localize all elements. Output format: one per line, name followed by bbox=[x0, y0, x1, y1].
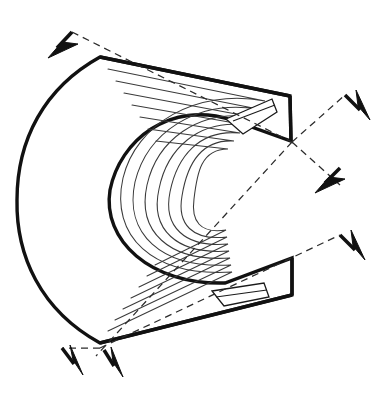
arrow-head bbox=[356, 90, 370, 120]
arrow-top-left-icon bbox=[48, 32, 78, 58]
arrow-right-lower-icon bbox=[340, 230, 365, 260]
lamination-line bbox=[139, 117, 240, 287]
technical-drawing-canvas: Curved laminated core segment with slot … bbox=[0, 0, 385, 405]
arrow-head bbox=[351, 230, 365, 260]
arrow-right-upper-icon bbox=[315, 168, 345, 193]
axis-line bbox=[292, 95, 345, 142]
arrow-bottom-left-outer-icon bbox=[62, 345, 83, 375]
top-right-vertical-edge bbox=[290, 96, 291, 141]
arrow-head bbox=[48, 42, 78, 58]
core-segment-diagram: Curved laminated core segment with slot … bbox=[0, 0, 385, 405]
arrow-head bbox=[315, 177, 345, 193]
arrow-top-right-outer-icon bbox=[345, 90, 370, 120]
arrow-bottom-left-inner-icon bbox=[104, 347, 123, 377]
lamination-line bbox=[147, 129, 234, 276]
lamination-line bbox=[155, 141, 228, 265]
arrow-head bbox=[111, 347, 123, 377]
